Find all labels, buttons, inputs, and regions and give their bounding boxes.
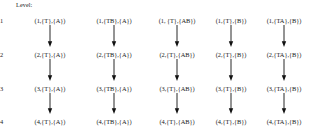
arrow-c2-l2-l3 — [111, 59, 118, 82]
node-c4-l4: (4,{T},{B}) — [216, 118, 247, 125]
arrow-c1-l1-l2 — [47, 25, 54, 48]
arrow-c5-l2-l3 — [281, 59, 288, 82]
node-c3-l3: (3,{T},{AB}) — [159, 85, 194, 92]
node-c5-l1: (1,{TA},{B}) — [267, 17, 302, 24]
node-c3-l4: (4,{T},{AB}) — [159, 118, 194, 125]
arrow-c1-l2-l3 — [47, 59, 54, 82]
arrow-c4-l1-l2 — [228, 25, 235, 48]
node-c5-l3: (3,{TA},{B}) — [267, 85, 302, 92]
node-c1-l2: (2,{T},{A}) — [35, 51, 66, 58]
node-c3-l1: (1, {T},{AB}) — [159, 17, 196, 24]
arrow-c4-l3-l4 — [228, 93, 235, 115]
node-c4-l3: (3,{T},{B}) — [216, 85, 247, 92]
node-c3-l2: (2,{T},{AB}) — [159, 51, 194, 58]
node-c2-l3: (3,{TB},{A}) — [96, 85, 131, 92]
arrow-c3-l3-l4 — [174, 93, 181, 115]
node-c4-l2: (2,{T},{B}) — [216, 51, 247, 58]
level-label-3: 3 — [0, 85, 12, 92]
arrow-c3-l1-l2 — [174, 25, 181, 48]
level-caption: Level: — [16, 1, 32, 8]
node-c2-l2: (2,{TB},{A}) — [96, 51, 131, 58]
arrow-c5-l1-l2 — [281, 25, 288, 48]
node-c1-l3: (3,{T},{A}) — [35, 85, 66, 92]
arrow-c4-l2-l3 — [228, 59, 235, 82]
arrow-c2-l3-l4 — [111, 93, 118, 115]
node-c2-l1: (1,{TB},{A}) — [96, 17, 131, 24]
lattice-diagram: Level: 1 2 3 4 (1,{T},{A}) (2,{T},{A}) (… — [0, 0, 313, 138]
node-c5-l2: (2,{TA},{B}) — [267, 51, 302, 58]
node-c1-l1: (1,{T},{A}) — [35, 17, 66, 24]
level-label-4: 4 — [0, 118, 12, 125]
arrow-c2-l1-l2 — [111, 25, 118, 48]
node-c4-l1: (1,{T},{B}) — [216, 17, 247, 24]
arrow-c5-l3-l4 — [281, 93, 288, 115]
arrow-c1-l3-l4 — [47, 93, 54, 115]
node-c5-l4: (4,{TA},{B}) — [267, 118, 302, 125]
arrow-c3-l2-l3 — [174, 59, 181, 82]
level-label-1: 1 — [0, 17, 12, 24]
node-c2-l4: (4,{TB},{A}) — [96, 118, 131, 125]
node-c1-l4: (4,{T},{A}) — [35, 118, 66, 125]
level-label-2: 2 — [0, 51, 12, 58]
